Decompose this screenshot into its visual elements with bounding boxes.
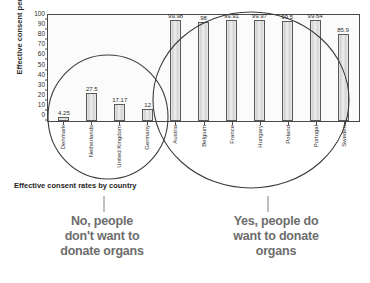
x-label-slot: Poland — [274, 124, 302, 168]
x-axis-category-label: France — [229, 125, 235, 144]
x-label-slot: Netherlands — [77, 124, 105, 168]
x-axis-category-label: Germany — [144, 125, 150, 150]
x-axis-category-label: United Kingdom — [116, 125, 122, 168]
y-axis-tick-label: 60 — [25, 50, 45, 57]
bar-series: 4.2527.517.171299.989899.9199.9799.599.6… — [48, 15, 359, 121]
x-label-slot: Austria — [161, 124, 189, 168]
bar-slot: 99.97 — [245, 15, 273, 121]
bar-value-label: 99.91 — [224, 13, 239, 19]
x-label-slot: United Kingdom — [105, 124, 133, 168]
bar-value-label: 98 — [200, 15, 207, 21]
bar — [338, 34, 349, 121]
x-axis-category-label: Poland — [285, 125, 291, 144]
x-label-slot: France — [218, 124, 246, 168]
x-axis-category-label: Netherlands — [88, 125, 94, 157]
bar — [198, 22, 209, 121]
x-label-slot: Germany — [133, 124, 161, 168]
bar — [142, 109, 153, 121]
bar-slot: 99.64 — [301, 15, 329, 121]
x-label-slot: Portugal — [302, 124, 330, 168]
annotation-line: donate organs — [28, 244, 176, 259]
bar-slot: 12 — [134, 15, 162, 121]
bar-slot: 17.17 — [106, 15, 134, 121]
bar-value-label: 4.25 — [58, 110, 70, 116]
x-axis-category-label: Austria — [172, 125, 178, 144]
y-axis-tick-label: 10 — [25, 100, 45, 107]
bar-value-label: 99.5 — [281, 14, 293, 20]
bar — [254, 20, 265, 121]
y-axis-tick-label: 0 — [25, 111, 45, 118]
bar-value-label: 27.5 — [86, 86, 98, 92]
x-axis-category-label: Sweden — [341, 125, 347, 147]
bar-slot: 99.5 — [273, 15, 301, 121]
bar-value-label: 12 — [144, 102, 151, 108]
x-axis-labels: DenmarkNetherlandsUnited KingdomGermanyA… — [47, 124, 360, 168]
bar-value-label: 17.17 — [112, 97, 127, 103]
y-axis-tick-label: 20 — [25, 90, 45, 97]
annotation-line: organs — [196, 244, 356, 259]
y-axis-title: Effective consent percentage — [15, 0, 24, 78]
y-axis-tick-label: 50 — [25, 60, 45, 67]
x-label-slot: Hungary — [246, 124, 274, 168]
bar — [86, 93, 97, 121]
x-label-slot: Sweden — [330, 124, 358, 168]
bar-value-label: 99.98 — [168, 13, 183, 19]
bar-slot: 99.91 — [217, 15, 245, 121]
bar — [226, 20, 237, 121]
bar — [310, 20, 321, 121]
x-axis-category-label: Belgium — [201, 125, 207, 147]
x-label-slot: Denmark — [49, 124, 77, 168]
y-axis-tick-label: 70 — [25, 40, 45, 47]
bar — [282, 21, 293, 121]
bar-slot: 4.25 — [50, 15, 78, 121]
bar — [58, 117, 69, 121]
bar-value-label: 99.97 — [252, 13, 267, 19]
bar-value-label: 85.9 — [337, 27, 349, 33]
chart-caption: Effective consent rates by country — [14, 181, 137, 190]
plot-area: 0102030405060708090100 4.2527.517.171299… — [47, 14, 360, 122]
annotation-opt-out: Yes, people dowant to donateorgans — [196, 214, 356, 258]
annotation-opt-in: No, peopledon't want todonate organs — [28, 214, 176, 258]
bar-slot: 27.5 — [78, 15, 106, 121]
y-axis-tick-label: 80 — [25, 30, 45, 37]
x-axis-category-label: Portugal — [313, 125, 319, 147]
annotation-line: want to donate — [196, 229, 356, 244]
x-label-slot: Belgium — [189, 124, 217, 168]
bar-value-label: 99.64 — [308, 13, 323, 19]
annotation-line: don't want to — [28, 229, 176, 244]
chart-figure: Effective consent percentage 01020304050… — [0, 0, 370, 195]
x-axis-category-label: Denmark — [60, 125, 66, 149]
bar-slot: 99.98 — [162, 15, 190, 121]
x-axis-category-label: Hungary — [257, 125, 263, 148]
y-axis-tick-label: 30 — [25, 80, 45, 87]
annotation-line: No, people — [28, 214, 176, 229]
bar — [170, 20, 181, 121]
y-axis-tick-label: 40 — [25, 70, 45, 77]
y-axis-tick-label: 100 — [25, 10, 45, 17]
bar — [114, 104, 125, 121]
y-axis-tick-label: 90 — [25, 20, 45, 27]
bar-slot: 98 — [190, 15, 218, 121]
annotation-line: Yes, people do — [196, 214, 356, 229]
bar-slot: 85.9 — [329, 15, 357, 121]
